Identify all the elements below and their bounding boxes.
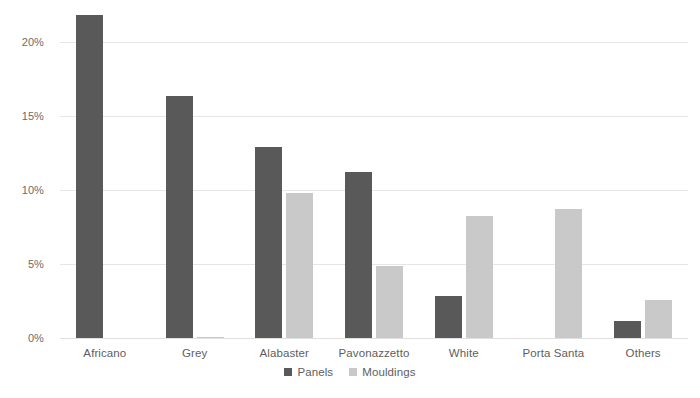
y-axis-tick-20: 20%: [22, 36, 44, 48]
bar-mouldings-others[interactable]: [645, 300, 672, 338]
x-axis: Africano Grey Alabaster Pavonazzetto Whi…: [60, 343, 688, 363]
x-axis-label-africano: Africano: [60, 343, 150, 363]
y-axis-tick-0: 0%: [28, 332, 44, 344]
x-axis-label-pavonazzetto: Pavonazzetto: [329, 343, 419, 363]
y-axis-tick-10: 10%: [22, 184, 44, 196]
y-axis-tick-5: 5%: [28, 258, 44, 270]
x-axis-label-others: Others: [598, 343, 688, 363]
legend-swatch-mouldings-icon: [349, 368, 357, 376]
x-axis-label-grey: Grey: [150, 343, 240, 363]
x-axis-label-porta-santa: Porta Santa: [509, 343, 599, 363]
bar-group-porta-santa: [509, 8, 599, 338]
bar-mouldings-alabaster[interactable]: [286, 193, 313, 338]
bar-group-alabaster: [239, 8, 329, 338]
legend-item-mouldings[interactable]: Mouldings: [349, 366, 415, 378]
bar-panels-others[interactable]: [614, 321, 641, 338]
gridline-0: [60, 338, 688, 339]
y-axis-tick-15: 15%: [22, 110, 44, 122]
bar-mouldings-grey[interactable]: [197, 337, 224, 338]
bar-mouldings-pavonazzetto[interactable]: [376, 266, 403, 339]
plot-area: [60, 8, 688, 338]
legend-item-panels[interactable]: Panels: [284, 366, 333, 378]
bar-panels-pavonazzetto[interactable]: [345, 172, 372, 338]
bar-panels-alabaster[interactable]: [255, 147, 282, 338]
bar-group-grey: [150, 8, 240, 338]
bar-panels-white[interactable]: [435, 296, 462, 338]
bar-mouldings-white[interactable]: [466, 216, 493, 338]
legend-label-panels: Panels: [297, 366, 333, 378]
bar-group-africano: [60, 8, 150, 338]
chart-legend: Panels Mouldings: [0, 366, 700, 378]
legend-label-mouldings: Mouldings: [362, 366, 415, 378]
y-axis: 20% 15% 10% 5% 0%: [0, 8, 54, 338]
bar-panels-grey[interactable]: [166, 96, 193, 338]
x-axis-label-white: White: [419, 343, 509, 363]
bar-group-white: [419, 8, 509, 338]
bar-mouldings-porta-santa[interactable]: [555, 209, 582, 338]
bar-chart: 20% 15% 10% 5% 0%: [0, 0, 700, 398]
x-axis-label-alabaster: Alabaster: [239, 343, 329, 363]
bar-group-pavonazzetto: [329, 8, 419, 338]
bar-panels-africano[interactable]: [76, 15, 103, 338]
bar-groups: [60, 8, 688, 338]
bar-group-others: [598, 8, 688, 338]
legend-swatch-panels-icon: [284, 368, 292, 376]
